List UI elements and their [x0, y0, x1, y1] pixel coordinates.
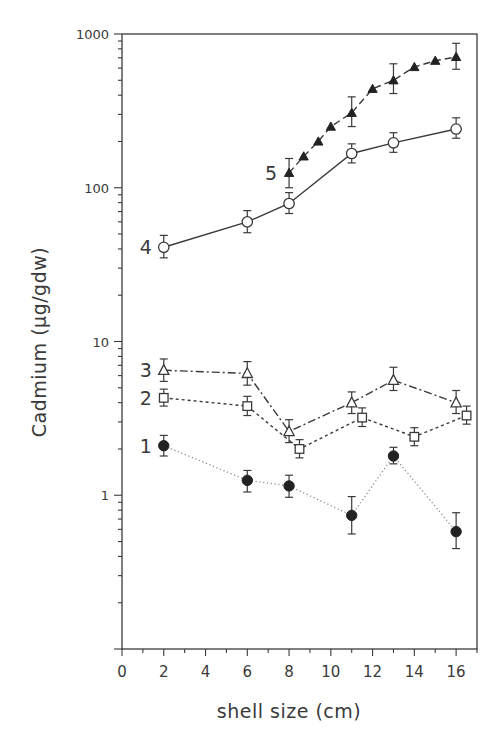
- series-2: [159, 389, 470, 458]
- series-3: [159, 359, 462, 443]
- y-tick-label: 10: [92, 335, 109, 350]
- filled-circle-marker: [159, 441, 169, 451]
- series-label-5: 5: [265, 162, 277, 184]
- filled-circle-marker: [242, 475, 252, 485]
- open-circle-marker: [347, 148, 357, 158]
- y-tick-label: 100: [84, 181, 109, 196]
- x-tick-label: 2: [159, 663, 169, 681]
- open-square-marker: [462, 411, 471, 420]
- series-label-1: 1: [140, 435, 152, 457]
- chart: 0246810121416 1101001000 12345 shell siz…: [0, 0, 504, 754]
- filled-circle-marker: [347, 510, 357, 520]
- series-label-2: 2: [140, 387, 152, 409]
- chart-canvas: 0246810121416 1101001000 12345 shell siz…: [0, 0, 504, 754]
- filled-circle-marker: [388, 451, 398, 461]
- x-tick-label: 10: [321, 663, 340, 681]
- open-circle-marker: [284, 198, 294, 208]
- open-square-marker: [410, 432, 419, 441]
- filled-triangle-marker: [389, 76, 398, 84]
- plot-border: [122, 34, 477, 649]
- series-5: [284, 43, 460, 187]
- open-triangle-marker: [347, 397, 357, 407]
- open-circle-marker: [159, 242, 169, 252]
- series-line: [164, 370, 456, 431]
- series-label-3: 3: [140, 359, 152, 381]
- open-square-marker: [243, 402, 252, 411]
- filled-triangle-marker: [368, 84, 377, 92]
- series-labels: 12345: [140, 162, 277, 457]
- series-line: [289, 57, 456, 173]
- open-triangle-marker: [242, 368, 252, 378]
- open-square-marker: [159, 394, 168, 403]
- x-tick-label: 16: [447, 663, 466, 681]
- y-axis-title: Cadmium (μg/gdw): [28, 247, 50, 437]
- x-tick-label: 14: [405, 663, 424, 681]
- series-line: [164, 446, 456, 532]
- y-axis: 1101001000: [76, 27, 122, 649]
- x-tick-label: 8: [284, 663, 294, 681]
- y-tick-label: 1: [101, 488, 109, 503]
- open-square-marker: [295, 445, 304, 454]
- open-circle-marker: [451, 124, 461, 134]
- open-circle-marker: [388, 138, 398, 148]
- series-1: [159, 435, 462, 548]
- filled-triangle-marker: [452, 52, 461, 60]
- series-label-4: 4: [140, 236, 152, 258]
- plot-frame: [122, 34, 477, 649]
- series-line: [164, 129, 456, 247]
- filled-circle-marker: [451, 526, 461, 536]
- open-circle-marker: [242, 217, 252, 227]
- x-axis-title: shell size (cm): [217, 700, 361, 722]
- x-tick-label: 12: [363, 663, 382, 681]
- filled-circle-marker: [284, 481, 294, 491]
- x-axis: 0246810121416: [117, 649, 477, 681]
- open-square-marker: [358, 413, 367, 422]
- x-tick-label: 6: [243, 663, 253, 681]
- open-triangle-marker: [159, 365, 169, 375]
- series-layer: [159, 43, 471, 548]
- series-4: [159, 118, 462, 258]
- open-triangle-marker: [451, 397, 461, 407]
- filled-triangle-marker: [326, 122, 335, 130]
- series-line: [164, 398, 467, 449]
- x-tick-label: 4: [201, 663, 211, 681]
- y-tick-label: 1000: [76, 27, 109, 42]
- open-triangle-marker: [388, 375, 398, 385]
- x-tick-label: 0: [117, 663, 127, 681]
